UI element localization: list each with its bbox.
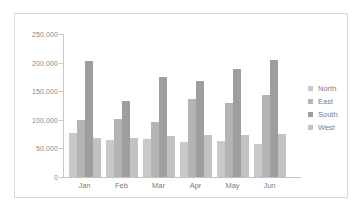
x-axis-tick-label: Jan (69, 181, 101, 190)
y-axis-line (63, 34, 64, 177)
legend-label: North (318, 84, 336, 93)
bar-group: May (217, 34, 249, 177)
legend-swatch-icon (308, 99, 313, 104)
y-axis-tick-label: 250,000 (32, 31, 58, 38)
x-axis-tick-label: Feb (106, 181, 138, 190)
bar-group: Apr (180, 34, 212, 177)
legend-item-north[interactable]: North (308, 82, 360, 95)
y-axis-tick-label: 150,000 (32, 88, 58, 95)
chart-legend: NorthEastSouthWest (308, 82, 360, 134)
bar (225, 103, 233, 177)
bar (93, 138, 101, 177)
legend-item-south[interactable]: South (308, 108, 360, 121)
legend-item-east[interactable]: East (308, 95, 360, 108)
bar-group: Jan (69, 34, 101, 177)
y-axis-tick-label: 100,000 (32, 116, 58, 123)
bar-group: Feb (106, 34, 138, 177)
bar (114, 119, 122, 177)
bar (159, 77, 167, 177)
x-axis-tick-label: Apr (180, 181, 212, 190)
chart-panel: 050,000100,000150,000200,000250,000 JanF… (14, 13, 348, 198)
bar (262, 95, 270, 177)
legend-swatch-icon (308, 112, 313, 117)
bar-group: Jun (254, 34, 286, 177)
x-axis-line (63, 177, 301, 178)
y-axis-tick-mark (59, 148, 63, 149)
y-axis-tick-mark (59, 177, 63, 178)
bar (204, 135, 212, 177)
bar (151, 122, 159, 177)
bar (188, 99, 196, 177)
y-axis-tick-mark (59, 91, 63, 92)
bar (106, 140, 114, 177)
x-axis-tick-label: May (217, 181, 249, 190)
legend-item-west[interactable]: West (308, 121, 360, 134)
bar (278, 134, 286, 177)
y-axis-tick-label: 50,000 (36, 145, 58, 152)
bar (77, 120, 85, 177)
bar (180, 142, 188, 177)
bar (85, 61, 93, 177)
bar (143, 139, 151, 177)
x-axis-tick-label: Mar (143, 181, 175, 190)
bar (167, 136, 175, 177)
bar-group: Mar (143, 34, 175, 177)
bar (270, 60, 278, 177)
bar (254, 144, 262, 177)
x-axis-tick-label: Jun (254, 181, 286, 190)
bar (122, 101, 130, 177)
legend-label: South (318, 110, 338, 119)
legend-swatch-icon (308, 125, 313, 130)
y-axis-tick-label: 0 (54, 174, 58, 181)
bar (241, 135, 249, 177)
y-axis-tick-mark (59, 120, 63, 121)
bar (69, 133, 77, 177)
plot-area: 050,000100,000150,000200,000250,000 JanF… (63, 34, 285, 177)
y-axis-tick-mark (59, 63, 63, 64)
y-axis-tick-label: 200,000 (32, 59, 58, 66)
bar (233, 69, 241, 177)
legend-label: East (318, 97, 333, 106)
legend-label: West (318, 123, 335, 132)
bar (217, 141, 225, 177)
bar (196, 81, 204, 177)
legend-swatch-icon (308, 86, 313, 91)
bar (130, 138, 138, 177)
y-axis-tick-mark (59, 34, 63, 35)
